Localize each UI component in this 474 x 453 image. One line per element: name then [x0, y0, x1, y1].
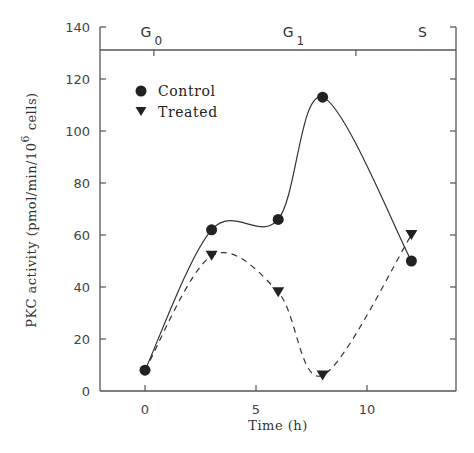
legend: Control Treated [136, 83, 218, 120]
y-tick-label: 0 [82, 384, 90, 399]
x-tick-label: 5 [252, 402, 260, 417]
treated-marker-icon [405, 230, 417, 240]
y-axis-label-tail: cells) [24, 92, 39, 135]
control-marker-icon [273, 214, 284, 225]
x-tick-label: 0 [141, 402, 149, 417]
y-tick-label: 140 [65, 20, 90, 35]
y-tick-label: 80 [73, 176, 90, 191]
legend-treated-marker-icon [136, 107, 147, 116]
legend-control-label: Control [158, 83, 216, 99]
phase-label: S [418, 24, 427, 40]
y-axis-label: PKC activity (pmol/min/106 cells) [19, 92, 39, 327]
y-tick-label: 120 [65, 72, 90, 87]
phase-label: G1 [283, 24, 305, 48]
treated-marker-icon [206, 251, 218, 261]
treated-marker-icon [317, 370, 329, 380]
x-ticks: 0510 [141, 385, 375, 417]
y-tick-label: 100 [65, 124, 90, 139]
chart-canvas: 020406080100120140 0510 G0G1S Control Tr… [0, 0, 474, 453]
x-axis-label: Time (h) [248, 418, 308, 433]
y-tick-label: 20 [73, 332, 90, 347]
plot-frame [100, 27, 456, 391]
x-tick-label: 10 [359, 402, 376, 417]
y-axis-label-sup: 6 [19, 135, 32, 143]
y-tick-label: 40 [73, 280, 90, 295]
y-ticks: 020406080100120140 [65, 20, 456, 399]
control-marker-icon [206, 224, 217, 235]
legend-treated-label: Treated [158, 104, 218, 120]
y-axis-label-main: PKC activity (pmol/min/10 [24, 143, 39, 328]
control-marker-icon [140, 365, 151, 376]
phase-label: G0 [141, 24, 163, 48]
series-line-treated [145, 235, 411, 376]
series-line-control [145, 97, 411, 370]
cell-cycle-phases: G0G1S [141, 24, 428, 56]
y-tick-label: 60 [73, 228, 90, 243]
treated-marker-icon [272, 287, 284, 297]
data-series [140, 92, 418, 381]
legend-control-marker-icon [136, 86, 147, 97]
control-marker-icon [317, 92, 328, 103]
control-marker-icon [406, 256, 417, 267]
